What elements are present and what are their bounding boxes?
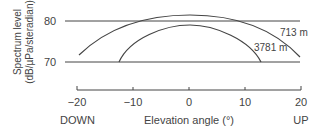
x-tick-label: 10 — [239, 96, 251, 108]
x-tick-label: −20 — [68, 96, 87, 108]
y-tick-80: 80 — [44, 15, 56, 27]
x-end-label-up: UP — [293, 114, 308, 126]
x-end-label-down: DOWN — [60, 114, 95, 126]
annotation-3781m: 3781 m — [254, 42, 287, 53]
x-tick-label: −10 — [124, 96, 143, 108]
y-axis-label: Spectrum level — [12, 9, 23, 75]
series-3781m-curve — [119, 25, 261, 62]
x-axis-label: Elevation angle (°) — [144, 114, 234, 126]
y-axis-units: (dB/µPa/steradian) — [24, 0, 35, 84]
x-tick-label: 20 — [295, 96, 307, 108]
y-tick-70: 70 — [44, 56, 56, 68]
annotation-713m: 713 m — [280, 27, 308, 38]
chart: 80 70 Spectrum level (dB/µPa/steradian) … — [0, 0, 321, 130]
x-tick-label: 0 — [186, 96, 192, 108]
